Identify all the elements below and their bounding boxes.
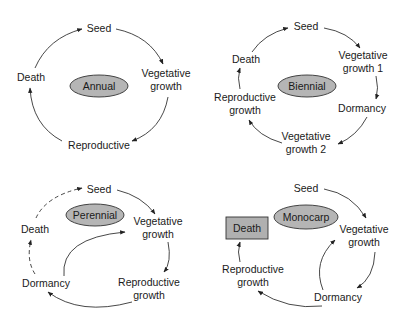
annual-veg-line1: Vegetative bbox=[141, 67, 190, 79]
monocarp-repro-line1: Reproductive bbox=[222, 263, 284, 275]
arrow-dormancy-to-veg bbox=[64, 232, 125, 276]
biennial-veg1-line2: growth 1 bbox=[343, 62, 383, 74]
annual-title: Annual bbox=[83, 80, 116, 92]
monocarp-death: Death bbox=[233, 222, 261, 234]
annual-veg-line2: growth bbox=[150, 80, 182, 92]
biennial-title: Biennial bbox=[288, 80, 325, 92]
arrow-veg2-to-repro bbox=[249, 120, 282, 143]
monocarp-dormancy: Dormancy bbox=[314, 291, 363, 303]
monocarp-diagram: Monocarp Death Seed Vegetative growth Do… bbox=[222, 182, 389, 307]
biennial-veg1-line1: Vegetative bbox=[338, 49, 387, 61]
perennial-repro-line2: growth bbox=[133, 289, 165, 301]
arrow-repro-to-death bbox=[30, 88, 62, 141]
arrow-veg-to-dormancy bbox=[357, 252, 375, 288]
annual-death: Death bbox=[17, 71, 45, 83]
arrow-seed-to-veg bbox=[117, 190, 155, 214]
biennial-diagram: Biennial Seed Vegetative growth 1 Dorman… bbox=[214, 20, 388, 155]
arrow-repro-to-dormancy bbox=[48, 292, 132, 307]
arrow-dormancy-to-veg bbox=[319, 240, 335, 290]
monocarp-repro-line2: growth bbox=[237, 276, 269, 288]
monocarp-veg-line1: Vegetative bbox=[339, 223, 388, 235]
perennial-veg-line2: growth bbox=[142, 228, 174, 240]
arrow-repro-to-death bbox=[239, 242, 241, 262]
biennial-repro-line1: Reproductive bbox=[214, 91, 276, 103]
biennial-death: Death bbox=[232, 53, 260, 65]
monocarp-title: Monocarp bbox=[283, 211, 330, 223]
arrow-death-to-seed bbox=[35, 29, 82, 68]
arrow-veg-to-repro bbox=[132, 97, 168, 141]
perennial-veg-line1: Vegetative bbox=[133, 215, 182, 227]
arrow-repro-to-death bbox=[239, 68, 241, 89]
annual-diagram: Annual Seed Vegetative growth Reproducti… bbox=[17, 22, 191, 151]
arrow-death-to-seed bbox=[252, 28, 288, 52]
monocarp-seed: Seed bbox=[294, 182, 319, 194]
arrow-dormancy-to-repro bbox=[258, 291, 322, 307]
annual-seed: Seed bbox=[87, 22, 112, 34]
annual-repro: Reproductive bbox=[68, 139, 130, 151]
perennial-dormancy: Dormancy bbox=[22, 277, 71, 289]
arrow-seed-to-veg1 bbox=[324, 28, 360, 48]
biennial-veg2-line1: Vegetative bbox=[281, 130, 330, 142]
perennial-seed: Seed bbox=[87, 183, 112, 195]
arrow-dormancy-to-death-dashed bbox=[29, 240, 35, 274]
perennial-diagram: Perennial Seed Vegetative growth Reprodu… bbox=[21, 183, 183, 307]
life-cycle-diagrams: Annual Seed Vegetative growth Reproducti… bbox=[0, 0, 405, 321]
arrow-veg-to-repro bbox=[164, 242, 169, 272]
biennial-seed: Seed bbox=[294, 20, 319, 32]
monocarp-veg-line2: growth bbox=[348, 236, 380, 248]
perennial-title: Perennial bbox=[73, 209, 117, 221]
biennial-dormancy: Dormancy bbox=[338, 102, 387, 114]
perennial-death: Death bbox=[21, 223, 49, 235]
arrow-seed-to-veg bbox=[116, 29, 163, 64]
biennial-veg2-line2: growth 2 bbox=[286, 143, 326, 155]
perennial-repro-line1: Reproductive bbox=[118, 276, 180, 288]
biennial-repro-line2: growth bbox=[229, 104, 261, 116]
arrow-dormancy-to-veg2 bbox=[338, 117, 367, 144]
arrow-veg1-to-dormancy bbox=[376, 76, 378, 99]
